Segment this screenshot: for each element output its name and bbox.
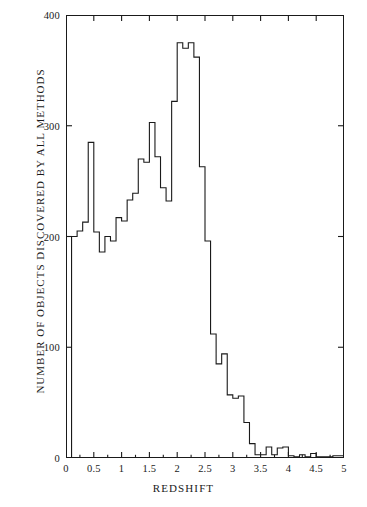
- x-tick-label: 1: [119, 463, 124, 474]
- histogram-step-line: [66, 43, 344, 458]
- x-tick-label: 2: [174, 463, 179, 474]
- x-tick-label: 2.5: [198, 463, 212, 474]
- x-tick-label: 1.5: [143, 463, 157, 474]
- y-axis-title: NUMBER OF OBJECTS DISCOVERED BY ALL METH…: [34, 61, 46, 401]
- x-axis-title: REDSHIFT: [0, 482, 367, 494]
- x-tick-label: 4.5: [309, 463, 323, 474]
- x-tick-label: 0.5: [87, 463, 101, 474]
- x-tick-label: 3.5: [254, 463, 268, 474]
- x-tick-label: 3: [230, 463, 235, 474]
- x-tick-label: 4: [286, 463, 291, 474]
- histogram-plot: [66, 15, 344, 458]
- y-tick-label: 0: [18, 453, 60, 464]
- figure-container: 00.511.522.533.544.55 0100200300400 REDS…: [0, 0, 367, 507]
- x-tick-label: 0: [63, 463, 68, 474]
- x-tick-label: 5: [341, 463, 346, 474]
- y-tick-label: 400: [18, 10, 60, 21]
